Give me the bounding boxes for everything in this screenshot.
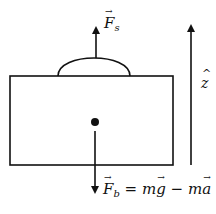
equals-sign: = [125,180,138,198]
vector-a: a [202,182,211,197]
axis-label-z-hat: z [201,76,208,90]
minus-sign: − [171,180,184,198]
mass-symbol: m [142,180,156,198]
hat-symbol: z [201,76,208,90]
mass-symbol: m [188,180,202,198]
gravity-symbol: g [156,180,166,198]
dome-cap [58,58,130,76]
force-symbol: F [103,180,113,198]
acceleration-symbol: a [202,180,211,198]
vector-arrow-f: F [103,182,113,197]
force-subscript: b [113,188,119,199]
center-of-mass-dot [91,118,99,126]
axis-symbol: z [201,75,208,91]
force-symbol: F [104,14,114,32]
force-label-f-b: Fb = mg − ma [103,182,211,199]
vector-arrow-f: F [104,16,114,31]
force-label-f-s: Fs [104,16,120,33]
force-subscript: s [114,22,119,33]
vector-g: g [156,182,166,197]
